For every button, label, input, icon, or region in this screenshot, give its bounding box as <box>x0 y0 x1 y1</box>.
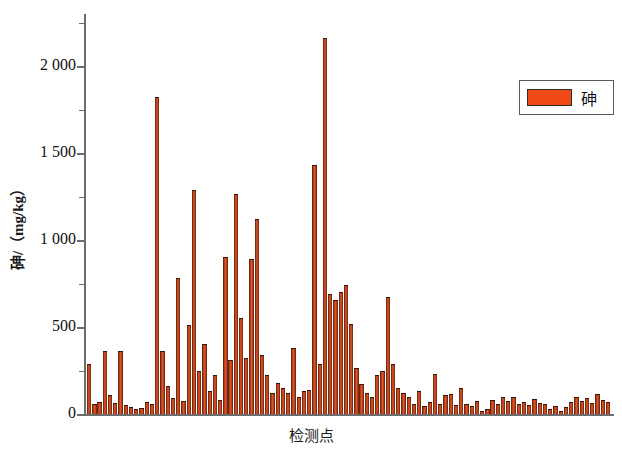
bar <box>291 348 295 414</box>
bar <box>401 393 405 414</box>
x-axis-line <box>84 414 614 416</box>
bar-series-arsenic <box>85 14 614 414</box>
bar <box>160 351 164 414</box>
bar <box>197 371 201 414</box>
bar <box>391 364 395 414</box>
plot-area <box>84 14 614 414</box>
bar <box>464 404 468 414</box>
bar <box>97 402 101 414</box>
bar <box>375 375 379 414</box>
bar <box>218 400 222 414</box>
bar <box>386 297 390 414</box>
bar <box>312 165 316 414</box>
bar <box>559 411 563 414</box>
bar <box>590 403 594 414</box>
bar <box>359 384 363 414</box>
bar <box>349 324 353 414</box>
bar <box>354 368 358 414</box>
bar <box>480 411 484 414</box>
y-tick-major <box>77 240 85 242</box>
bar <box>496 404 500 414</box>
bar <box>396 388 400 414</box>
bar <box>606 402 610 414</box>
bar <box>228 360 232 414</box>
bar <box>318 364 322 414</box>
bar <box>202 344 206 414</box>
bar <box>433 374 437 414</box>
bar <box>511 397 515 414</box>
bar <box>297 397 301 414</box>
bar <box>538 403 542 414</box>
bar <box>176 278 180 414</box>
bar <box>223 257 227 414</box>
bar <box>129 407 133 414</box>
bar <box>208 391 212 414</box>
bar <box>417 391 421 414</box>
bar <box>490 400 494 414</box>
bar <box>118 351 122 414</box>
bar <box>501 397 505 414</box>
legend-label-arsenic: 砷 <box>581 86 597 110</box>
bar <box>333 300 337 414</box>
bar <box>302 391 306 414</box>
y-tick-major <box>77 66 85 68</box>
bar <box>428 402 432 414</box>
bar <box>553 406 557 414</box>
y-tick-label: 1 500 <box>20 144 76 160</box>
bar <box>171 398 175 414</box>
bar <box>527 405 531 414</box>
bar <box>113 403 117 414</box>
bar <box>475 401 479 414</box>
bar <box>443 395 447 414</box>
bar <box>344 285 348 414</box>
bar <box>370 397 374 414</box>
bar <box>470 406 474 414</box>
bar <box>265 375 269 414</box>
bar <box>276 383 280 414</box>
bar <box>87 364 91 414</box>
bar <box>270 393 274 414</box>
bar <box>580 401 584 414</box>
y-tick-label: 2 000 <box>20 57 76 73</box>
bar <box>244 358 248 414</box>
bar <box>260 355 264 414</box>
bar <box>155 97 159 414</box>
y-tick-label: 0 <box>20 405 76 421</box>
bar <box>249 259 253 414</box>
bar <box>286 393 290 414</box>
y-axis-tick-labels: 05001 0001 5002 000 <box>20 0 76 451</box>
bar <box>595 394 599 414</box>
bar <box>339 292 343 414</box>
bar <box>459 388 463 414</box>
legend-swatch-arsenic <box>527 89 572 106</box>
x-axis-title: 检测点 <box>0 424 622 445</box>
y-tick-label: 500 <box>20 318 76 334</box>
bar <box>438 404 442 414</box>
bar <box>522 402 526 414</box>
bar <box>108 395 112 414</box>
bar <box>574 397 578 414</box>
bar <box>150 404 154 414</box>
bar <box>564 407 568 414</box>
y-tick-major <box>77 327 85 329</box>
bar <box>454 405 458 414</box>
bar <box>103 351 107 414</box>
bar <box>601 400 605 414</box>
y-tick-major <box>77 153 85 155</box>
bar <box>166 386 170 414</box>
bar <box>239 318 243 414</box>
bar <box>124 405 128 414</box>
y-tick-major <box>77 414 85 416</box>
bar <box>234 194 238 414</box>
bar <box>585 398 589 414</box>
bar <box>281 388 285 414</box>
bar <box>145 402 149 414</box>
bar <box>532 399 536 414</box>
bar <box>543 404 547 414</box>
bar <box>569 402 573 414</box>
bar <box>92 404 96 414</box>
bar <box>365 393 369 414</box>
arsenic-bar-chart: 砷/（mg/kg） 05001 0001 5002 000 砷 检测点 <box>0 0 622 451</box>
bar <box>506 401 510 414</box>
y-tick-label: 1 000 <box>20 231 76 247</box>
